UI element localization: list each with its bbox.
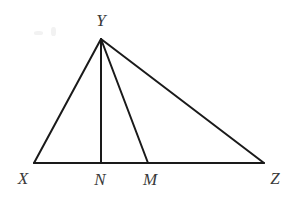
segment-XY (34, 39, 101, 163)
vertex-label-X: X (18, 170, 28, 187)
vertex-label-Y: Y (96, 12, 105, 29)
vertex-label-Z: Z (270, 170, 279, 187)
vertex-label-N: N (94, 171, 105, 188)
geometry-figure: Y X N M Z (0, 0, 300, 205)
scan-artifact-speck (34, 31, 43, 35)
vertex-label-M: M (143, 171, 157, 188)
scan-artifact-speck (51, 27, 56, 36)
